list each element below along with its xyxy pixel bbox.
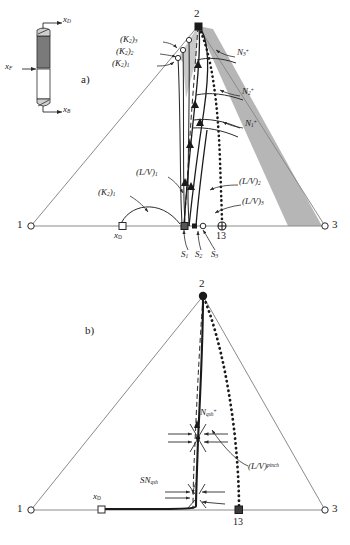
panel-a-n3-plus-label: N3+ [237,48,249,58]
panel-a-k2-1-lower-label: (K2)1 [98,188,115,198]
panel-a-s3-label: S3 [211,250,218,260]
panel-a-k2-1-label: (K2)1 [112,59,129,69]
panel-a-vertex-2: 2 [194,8,200,19]
panel-b-vertex-2: 2 [199,278,205,289]
panel-b-label: b) [85,325,94,336]
panel-a-lv-3-label: (L/V)3 [242,197,264,207]
panel-a-s1-label: S1 [181,250,188,260]
panel-b-vertex-1: 1 [17,503,23,514]
panel-a-n2-plus-label: N2+ [242,87,254,97]
panel-b-leader-lines [193,430,248,494]
panel-a-k2-3-label: (K2)3 [120,35,137,45]
figure-canvas [0,0,350,545]
panel-b-pinch-label: (L/V)pinch [248,462,279,471]
panel-a-label: a) [81,74,90,85]
panel-b-vertex-3: 3 [332,503,338,514]
panel-a-k2-arc [120,207,180,226]
panel-a-xd-label: xD [114,231,122,241]
column-feed-label: xF [5,62,12,72]
panel-a-node-13-label: 13 [216,231,226,241]
panel-b-xd-label: xD [93,492,101,502]
column-bottoms-label: xB [63,105,70,115]
panel-b-saddle-node-label: SNqsh [140,476,158,486]
panel-a-vertex-1: 1 [17,219,23,230]
panel-b-dotted-pinch-curve [204,298,239,508]
panel-b-markers [28,292,328,514]
panel-a-k2-2-label: (K2)2 [116,47,133,57]
column-distillate-label: xD [63,15,71,25]
panel-a-s2-label: S2 [195,250,202,260]
panel-b-node-qsh-label: Nqsh+ [200,408,217,418]
panel-b-node-13-label: 13 [233,517,243,527]
panel-a-vertex-3: 3 [332,219,338,230]
panel-a-lv-1-label: (L/V)1 [136,168,158,178]
distillation-column-sketch [22,23,62,112]
panel-a-lv-2-label: (L/V)2 [239,177,261,187]
figure-root: xD xF xB a) 1 2 3 xD 13 (K2)3 (K2)2 (K2)… [0,0,350,545]
panel-a-n1-plus-label: N1+ [245,119,257,129]
panel-b-triangle [31,296,325,510]
